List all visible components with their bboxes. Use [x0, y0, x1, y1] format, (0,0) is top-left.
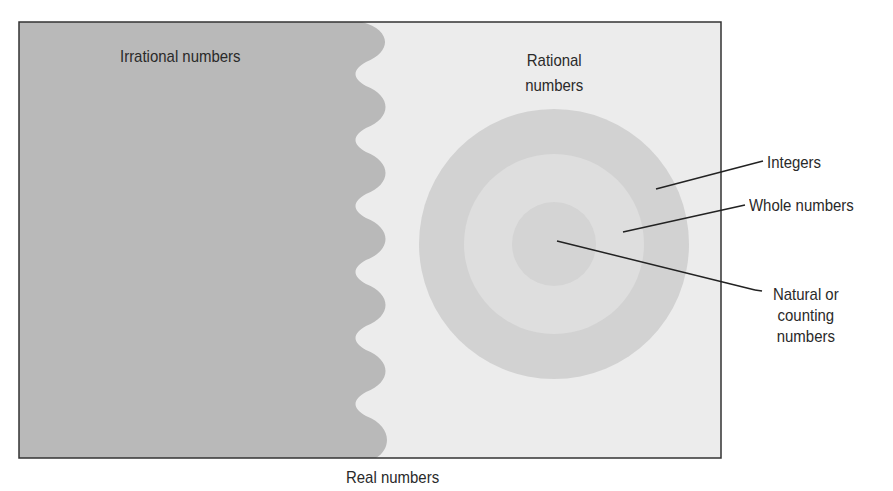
rational-numbers-label: Rational numbers [512, 50, 596, 96]
real-numbers-diagram [0, 0, 893, 491]
rational-label-line1: Rational [512, 50, 596, 71]
natural-numbers-leader-line-tail [755, 290, 762, 291]
irrational-numbers-label: Irrational numbers [120, 46, 241, 67]
natural-label-line3: numbers [768, 326, 844, 347]
natural-numbers-circle [512, 202, 596, 286]
natural-label-line2: counting [768, 305, 844, 326]
irrational-region [19, 22, 387, 458]
whole-numbers-label: Whole numbers [749, 195, 854, 216]
rational-label-line2: numbers [512, 75, 596, 96]
natural-numbers-label: Natural or counting numbers [768, 284, 844, 347]
natural-label-line1: Natural or [768, 284, 844, 305]
real-numbers-caption: Real numbers [346, 467, 439, 488]
integers-label: Integers [767, 152, 821, 173]
